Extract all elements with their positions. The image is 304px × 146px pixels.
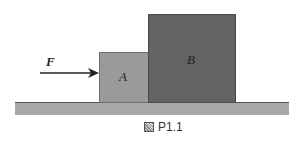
block-b-label: B	[187, 52, 195, 68]
force-arrow-icon	[38, 66, 100, 80]
block-a-label: A	[119, 69, 127, 85]
caption-text: P1.1	[158, 120, 183, 134]
figure-icon	[144, 122, 154, 132]
figure-caption: P1.1	[144, 120, 183, 134]
ground-surface	[15, 102, 289, 115]
